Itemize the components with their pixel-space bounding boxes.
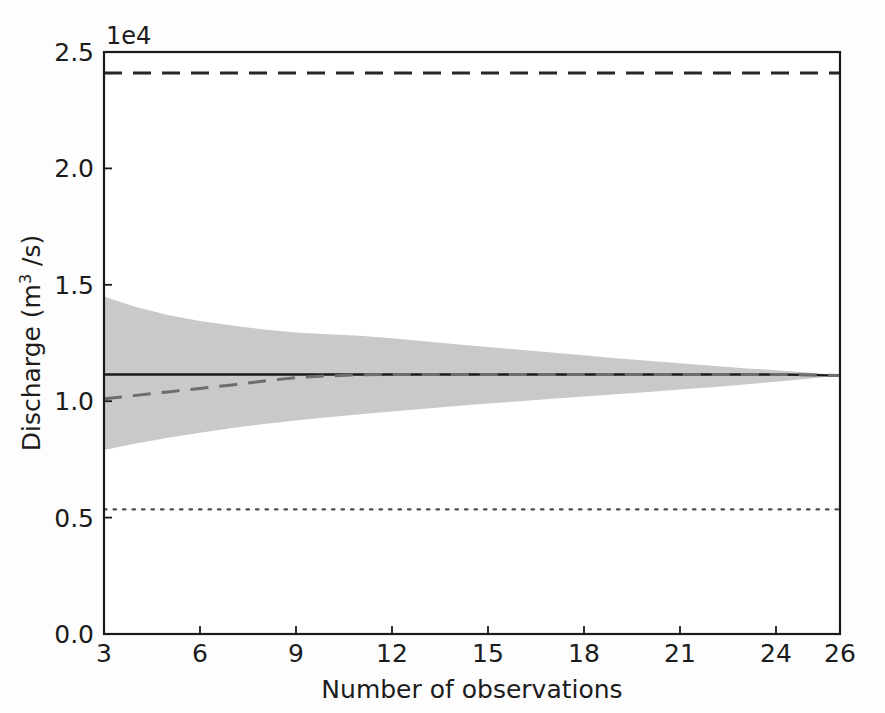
- x-tick-label: 26: [824, 639, 856, 668]
- y-tick-label: 2.5: [54, 38, 94, 67]
- y-tick-label: 0.5: [54, 504, 94, 533]
- x-tick-label: 9: [288, 639, 304, 668]
- x-tick-label: 6: [192, 639, 208, 668]
- y-axis-title-main: Discharge (m: [17, 284, 46, 451]
- svg-text:Discharge (m3 /s): Discharge (m3 /s): [16, 235, 46, 452]
- x-tick-label: 12: [376, 639, 408, 668]
- y-axis-title: Discharge (m3 /s): [16, 235, 46, 452]
- y-axis-offset-label: 1e4: [106, 22, 151, 50]
- x-tick-label: 21: [664, 639, 696, 668]
- y-tick-label: 2.0: [54, 154, 94, 183]
- x-tick-label: 15: [472, 639, 504, 668]
- y-tick-label: 1.5: [54, 271, 94, 300]
- chart-figure: 369121518212426 0.00.51.01.52.02.5 1e4 N…: [0, 0, 885, 713]
- chart-canvas: 369121518212426 0.00.51.01.52.02.5 1e4 N…: [0, 0, 885, 713]
- x-tick-label: 24: [760, 639, 792, 668]
- x-axis-title: Number of observations: [321, 675, 622, 704]
- y-axis-title-tail: /s): [17, 235, 46, 274]
- x-tick-label: 18: [568, 639, 600, 668]
- y-axis-title-superscript: 3: [16, 274, 35, 284]
- y-tick-label: 1.0: [54, 387, 94, 416]
- x-tick-label: 3: [96, 639, 112, 668]
- y-tick-label: 0.0: [54, 620, 94, 649]
